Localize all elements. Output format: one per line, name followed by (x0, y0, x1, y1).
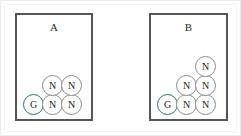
panel-b: B GNNNNN (149, 13, 228, 121)
normal-node: N (42, 94, 63, 115)
panel-a: A GNNNN (15, 13, 93, 121)
normal-node: N (42, 75, 63, 96)
goal-node: G (157, 94, 178, 115)
normal-node: N (61, 94, 82, 115)
panel-a-label: A (17, 21, 91, 33)
figure-canvas: A GNNNN B GNNNNN (0, 0, 241, 136)
normal-node: N (195, 56, 216, 77)
normal-node: N (61, 75, 82, 96)
panel-b-label: B (151, 21, 226, 33)
normal-node: N (195, 94, 216, 115)
normal-node: N (195, 75, 216, 96)
goal-node: G (23, 94, 44, 115)
normal-node: N (176, 75, 197, 96)
normal-node: N (176, 94, 197, 115)
